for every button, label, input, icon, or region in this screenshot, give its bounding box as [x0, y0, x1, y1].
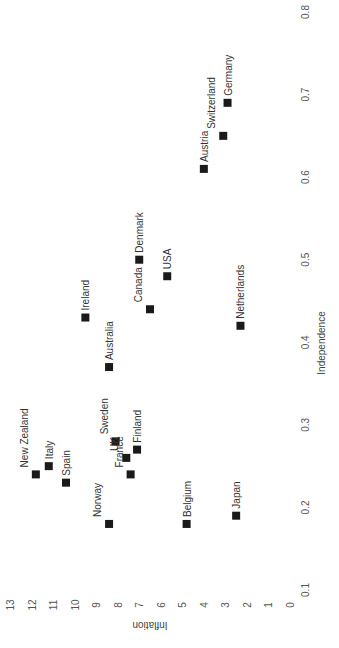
inflation-tick: 12	[27, 599, 38, 611]
point-label: France	[114, 436, 125, 468]
data-point: Japan	[231, 481, 242, 519]
data-point: Spain	[61, 450, 72, 487]
point-label: Japan	[231, 481, 242, 508]
data-point: Austria	[199, 130, 210, 173]
data-point: Denmark	[134, 211, 145, 264]
point-label: Ireland	[80, 280, 91, 311]
square-marker-icon	[183, 520, 191, 528]
point-label: Netherlands	[235, 265, 246, 319]
square-marker-icon	[232, 512, 240, 520]
data-point: Norway	[92, 483, 113, 528]
data-point: Italy	[44, 441, 55, 470]
square-marker-icon	[105, 363, 113, 371]
inflation-tick: 0	[285, 602, 296, 608]
point-label: Finland	[132, 410, 143, 443]
square-marker-icon	[219, 132, 227, 140]
data-point: New Zealand	[19, 408, 40, 478]
square-marker-icon	[62, 479, 70, 487]
inflation-tick: 5	[177, 602, 188, 608]
data-points: New ZealandItalySpainSwedenUKFinlandFran…	[19, 55, 247, 528]
scatter-chart: 012345678910111213 Inflation 0.10.20.30.…	[0, 0, 339, 648]
square-marker-icon	[146, 305, 154, 313]
point-label: USA	[162, 248, 173, 269]
square-marker-icon	[32, 470, 40, 478]
square-marker-icon	[135, 256, 143, 264]
independence-tick: 0.4	[300, 335, 311, 349]
data-point: Belgium	[182, 481, 193, 528]
independence-tick: 0.6	[300, 170, 311, 184]
square-marker-icon	[236, 322, 244, 330]
point-label: Italy	[44, 441, 55, 459]
independence-tick: 0.1	[300, 583, 311, 597]
square-marker-icon	[224, 99, 232, 107]
inflation-tick: 3	[220, 602, 231, 608]
inflation-tick: 4	[199, 602, 210, 608]
independence-tick: 0.3	[300, 417, 311, 431]
point-label: Sweden	[99, 398, 110, 434]
point-label: Norway	[92, 483, 103, 517]
independence-axis-ticks: 0.10.20.30.40.50.60.70.8	[300, 5, 311, 597]
inflation-tick: 1	[263, 602, 274, 608]
data-point: Ireland	[80, 280, 91, 322]
point-label: Denmark	[134, 211, 145, 253]
point-label: Australia	[104, 321, 115, 360]
independence-tick: 0.5	[300, 252, 311, 266]
square-marker-icon	[163, 272, 171, 280]
inflation-tick: 9	[91, 602, 102, 608]
inflation-tick: 2	[242, 602, 253, 608]
square-marker-icon	[133, 446, 141, 454]
point-label: Canada	[133, 267, 144, 302]
independence-tick: 0.7	[300, 87, 311, 101]
point-label: Spain	[61, 450, 72, 476]
inflation-tick: 7	[134, 602, 145, 608]
square-marker-icon	[127, 470, 135, 478]
data-point: Netherlands	[235, 265, 246, 330]
data-point: Finland	[132, 410, 143, 454]
point-label: New Zealand	[19, 408, 30, 467]
inflation-tick: 11	[48, 599, 59, 610]
inflation-tick: 8	[113, 602, 124, 608]
inflation-axis-ticks: 012345678910111213	[5, 599, 296, 611]
point-label: Germany	[223, 55, 234, 96]
data-point: Canada	[133, 267, 154, 313]
inflation-tick: 6	[156, 602, 167, 608]
independence-tick: 0.2	[300, 500, 311, 514]
point-label: Austria	[199, 130, 210, 162]
data-point: USA	[162, 248, 173, 280]
inflation-tick: 10	[70, 599, 81, 611]
point-label: Switzerland	[206, 77, 217, 129]
data-point: Australia	[104, 321, 115, 371]
independence-axis-label: Independence	[316, 311, 327, 375]
square-marker-icon	[200, 165, 208, 173]
data-point: Germany	[223, 55, 234, 107]
square-marker-icon	[81, 314, 89, 322]
square-marker-icon	[105, 520, 113, 528]
point-label: Belgium	[182, 481, 193, 517]
inflation-tick: 13	[5, 599, 16, 611]
independence-tick: 0.8	[300, 5, 311, 19]
square-marker-icon	[45, 462, 53, 470]
inflation-axis-label: Inflation	[132, 620, 167, 631]
